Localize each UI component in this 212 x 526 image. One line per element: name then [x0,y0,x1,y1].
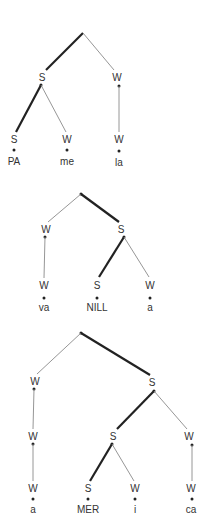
edge-weak [48,194,81,222]
edge-weak [124,237,149,277]
edge-strong [117,391,154,429]
leaf-label: W [28,483,38,494]
leaf-label: W [145,280,155,291]
edge-weak [41,85,66,132]
syllable-text: PA [8,156,21,167]
node-label-w: W [184,431,194,442]
syllable-dot [96,297,99,300]
syllable-text: a [147,302,153,313]
node-label-w: W [30,376,40,387]
edge-weak [44,237,45,278]
edge-strong [16,85,41,132]
syllable-text: ca [186,504,197,515]
edge-strong [99,237,124,277]
node-label-w: W [28,431,38,442]
leaf-label: S [94,280,101,291]
edge-weak [154,391,187,429]
syllable-text: MER [77,504,99,515]
syllable-dot [191,498,194,501]
node-label-w: W [41,224,51,235]
syllable-dot [66,149,69,152]
syllable-text: la [115,157,123,168]
syllable-text: va [39,302,50,313]
syllable-dot [134,498,137,501]
syllable-text: a [30,504,36,515]
node-label-s: S [110,431,117,442]
tree-vanilla: W S W S W va NILL a [39,193,156,314]
syllable-dot [149,297,152,300]
leaf-label: W [130,483,140,494]
edge-strong [81,333,150,375]
edge-weak [83,33,114,70]
leaf-label: S [85,483,92,494]
leaf-label: W [186,483,196,494]
leaf-label: S [11,134,18,145]
edge-strong [81,194,119,222]
leaf-label: W [62,134,72,145]
syllable-dot [87,498,90,501]
syllable-dot [32,498,35,501]
edge-strong [90,444,112,481]
leaf-label: W [114,134,124,145]
syllable-dot [43,297,46,300]
syllable-dot [118,150,121,153]
syllable-text: me [60,156,74,167]
node-label-s: S [39,72,46,83]
node-label-w: W [112,72,122,83]
node-label-s: S [149,377,156,388]
edge-weak [33,389,34,429]
tree-pamela: S W S W W PA me la [8,33,125,168]
syllable-dot [13,149,16,152]
tree-america: W S W S W W S W W a MER i ca [28,332,196,516]
syllable-text: i [134,504,136,515]
edge-weak [37,333,81,374]
leaf-label: W [39,280,49,291]
edge-weak [112,444,134,481]
metrical-tree-diagram: S W S W W PA me la W S W S W va NILL [0,0,212,526]
syllable-text: NILL [86,302,108,313]
node-label-s: S [118,224,125,235]
edge-strong [46,33,83,70]
